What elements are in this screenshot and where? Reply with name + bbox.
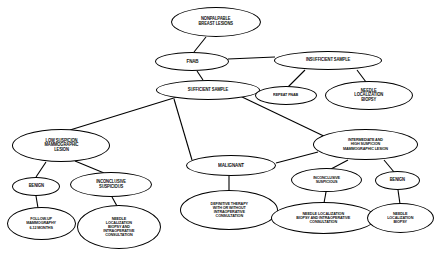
edge-fnab-to-insufficient [228, 57, 275, 59]
node-label-sufficient: SUFFICIENT SAMPLE [186, 88, 230, 93]
edge-sufficient-to-low-suspicion [70, 97, 177, 130]
node-label-nlb-intraop-right: NEEDLE LOCALIZATION BIOPSY AND INTRAOPER… [295, 212, 353, 225]
node-benign-right[interactable]: BENIGN [375, 171, 420, 190]
node-definitive-therapy[interactable]: DEFINITIVE THERAPY WITH OR WITHOUT INTRA… [180, 190, 278, 230]
node-nlb-top[interactable]: NEEDLE LOCALIZATION BIOPSY [325, 81, 413, 110]
node-malignant[interactable]: MALIGNANT [186, 155, 276, 176]
node-label-definitive-therapy: DEFINITIVE THERAPY WITH OR WITHOUT INTRA… [209, 202, 250, 219]
edge-low-suspicion-to-inconclusive-left [75, 161, 104, 173]
node-label-followup: FOLLOW-UP MAMMOGRAPHY 6-12 MONTHS [25, 217, 58, 230]
node-low-suspicion[interactable]: LOW SUSPICION MAMMOGRAPHIC LESION [12, 129, 110, 162]
node-label-benign-left: BENIGN [27, 184, 46, 189]
edge-sufficient-to-malignant [174, 99, 192, 160]
node-nlb-intraop-right[interactable]: NEEDLE LOCALIZATION BIOPSY AND INTRAOPER… [271, 202, 376, 234]
node-nlb-intraop-left[interactable]: NEEDLE LOCALIZATION BIOPSY AND INTRAOPER… [77, 205, 161, 249]
node-label-nlb-top: NEEDLE LOCALIZATION BIOPSY [353, 89, 386, 103]
node-label-nonpalpable: NONPALPABLE BREAST LESIONS [197, 17, 235, 26]
node-label-intermediate-high: INTERMEDIATE AND HIGH SUSPICION MAMMOGRA… [341, 138, 390, 151]
node-sufficient[interactable]: SUFFICIENT SAMPLE [156, 80, 260, 100]
node-inconclusive-right[interactable]: INCONCLUSIVE SUSPICIOUS [291, 168, 362, 192]
node-intermediate-high[interactable]: INTERMEDIATE AND HIGH SUSPICION MAMMOGRA… [313, 129, 418, 160]
node-label-nlb-intraop-left: NEEDLE LOCALIZATION BIOPSY AND INTRAOPER… [102, 217, 137, 238]
node-label-malignant: MALIGNANT [216, 163, 245, 168]
node-inconclusive-left[interactable]: INCONCLUSIVE SUSPICIOUS [70, 172, 152, 197]
edge-nonpalpable-to-fnab [194, 37, 206, 52]
node-label-inconclusive-left: INCONCLUSIVE SUSPICIOUS [94, 180, 127, 189]
node-label-nlb-bottom-right: NEEDLE LOCALIZATION BIOPSY [386, 212, 416, 225]
node-fnab[interactable]: FNAB [155, 52, 229, 71]
node-label-low-suspicion: LOW SUSPICION MAMMOGRAPHIC LESION [42, 139, 80, 153]
node-label-fnab: FNAB [184, 59, 200, 64]
node-nonpalpable[interactable]: NONPALPABLE BREAST LESIONS [171, 7, 261, 37]
node-label-insufficient: INSUFFICIENT SAMPLE [304, 58, 352, 63]
flowchart-canvas: NONPALPABLE BREAST LESIONSFNABINSUFFICIE… [0, 0, 436, 263]
node-repeat-fnab[interactable]: REPEAT FNAB [255, 86, 317, 105]
node-followup[interactable]: FOLLOW-UP MAMMOGRAPHY 6-12 MONTHS [7, 207, 76, 240]
node-label-repeat-fnab: REPEAT FNAB [272, 93, 301, 97]
node-nlb-bottom-right[interactable]: NEEDLE LOCALIZATION BIOPSY [367, 203, 434, 233]
node-insufficient[interactable]: INSUFFICIENT SAMPLE [274, 51, 382, 70]
edge-low-suspicion-to-benign-left [36, 162, 46, 177]
edge-fnab-to-sufficient [197, 71, 203, 80]
node-benign-left[interactable]: BENIGN [12, 177, 60, 196]
edge-insufficient-to-repeat-fnab [288, 70, 305, 87]
edge-benign-right-to-nlb-bottom-right [398, 190, 400, 204]
edge-intermediate-high-to-malignant [276, 152, 318, 163]
node-label-benign-right: BENIGN [388, 178, 407, 183]
node-label-inconclusive-right: INCONCLUSIVE SUSPICIOUS [311, 176, 341, 184]
